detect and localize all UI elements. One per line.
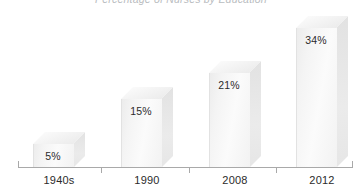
bar-side-face xyxy=(336,16,348,168)
bar-chart: Percentage of Nurses by Education 5%15%2… xyxy=(0,0,362,194)
axis-end-cap xyxy=(352,161,353,168)
plot-area: 5%15%21%34% xyxy=(0,0,362,194)
bar-value-label: 34% xyxy=(296,34,336,46)
bar-2008: 21% xyxy=(209,61,261,168)
axis-tick xyxy=(189,168,190,173)
category-label-1990: 1990 xyxy=(109,174,185,186)
bar-1990: 15% xyxy=(121,87,173,168)
bar-value-label: 21% xyxy=(209,79,249,91)
bar-value-label: 5% xyxy=(33,150,73,162)
bar-2012: 34% xyxy=(296,16,348,168)
axis-tick xyxy=(276,168,277,173)
bar-side-face xyxy=(249,61,261,168)
category-label-2008: 2008 xyxy=(197,174,273,186)
x-axis-line xyxy=(18,167,352,168)
bar-1940s: 5% xyxy=(33,132,85,168)
bar-front-face xyxy=(296,28,337,168)
bar-value-label: 15% xyxy=(121,105,161,117)
bar-side-face xyxy=(161,87,173,168)
category-label-1940s: 1940s xyxy=(21,174,97,186)
category-label-2012: 2012 xyxy=(284,174,360,186)
axis-end-cap xyxy=(18,161,19,168)
axis-tick xyxy=(101,168,102,173)
